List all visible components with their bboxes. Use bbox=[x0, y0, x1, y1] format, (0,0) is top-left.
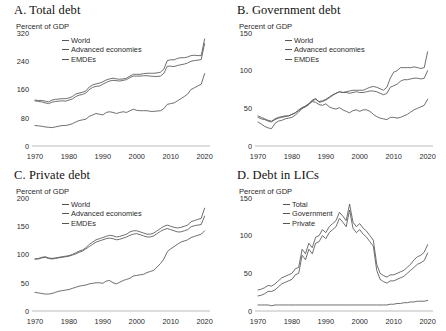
series-line-private bbox=[258, 300, 428, 305]
panel-a-plot: 080160240320197019801990200020102020 bbox=[0, 0, 223, 166]
legend-item-government: Government bbox=[283, 209, 333, 218]
panel-b-legend: World Advanced economies EMDEs bbox=[285, 36, 365, 64]
legend-line-icon bbox=[62, 59, 69, 60]
legend-label: World bbox=[71, 36, 90, 45]
panel-a-total-debt: A. Total debt Percent of GDP 08016024032… bbox=[0, 0, 223, 165]
axis-tick-label: 150 bbox=[240, 194, 252, 203]
line-chart-svg: 050100150200197019801990200020102020 bbox=[0, 165, 223, 331]
legend-line-icon bbox=[283, 223, 290, 224]
axis-tick-label: 2010 bbox=[385, 152, 401, 161]
legend-line-icon bbox=[285, 40, 292, 41]
axis-tick-label: 1980 bbox=[61, 317, 77, 326]
axis-tick-label: 2020 bbox=[196, 152, 212, 161]
axis-tick-label: 1970 bbox=[27, 152, 43, 161]
legend-item-emdes: EMDEs bbox=[285, 55, 365, 64]
legend-item-advanced-economies: Advanced economies bbox=[62, 45, 142, 54]
legend-line-icon bbox=[285, 49, 292, 50]
axis-tick-label: 100 bbox=[17, 250, 29, 259]
legend-line-icon bbox=[62, 40, 69, 41]
panel-c-private-debt: C. Private debt Percent of GDP 050100150… bbox=[0, 165, 223, 331]
legend-item-world: World bbox=[62, 36, 142, 45]
axis-tick-label: 150 bbox=[17, 222, 29, 231]
legend-line-icon bbox=[62, 49, 69, 50]
legend-label: Total bbox=[292, 200, 308, 209]
axis-tick-label: 2020 bbox=[196, 317, 212, 326]
panel-a-legend: World Advanced economies EMDEs bbox=[62, 36, 142, 64]
axis-tick-label: 1970 bbox=[27, 317, 43, 326]
axis-tick-label: 2020 bbox=[419, 152, 435, 161]
legend-label: Advanced economies bbox=[294, 45, 365, 54]
line-chart-svg: 050100150197019801990200020102020 bbox=[223, 0, 446, 166]
series-line-emdes bbox=[258, 99, 428, 128]
axis-tick-label: 2010 bbox=[162, 152, 178, 161]
legend-line-icon bbox=[62, 223, 69, 224]
axis-tick-label: 2000 bbox=[129, 317, 145, 326]
axis-tick-label: 50 bbox=[244, 104, 252, 113]
panel-d-legend: Total Government Private bbox=[283, 200, 333, 228]
axis-tick-label: 2000 bbox=[352, 317, 368, 326]
legend-item-emdes: EMDEs bbox=[62, 55, 142, 64]
legend-item-total: Total bbox=[283, 200, 333, 209]
axis-tick-label: 1980 bbox=[284, 317, 300, 326]
axis-tick-label: 1990 bbox=[95, 152, 111, 161]
legend-item-private: Private bbox=[283, 219, 333, 228]
legend-item-world: World bbox=[62, 200, 142, 209]
series-line-emdes bbox=[35, 231, 205, 294]
axis-tick-label: 2000 bbox=[352, 152, 368, 161]
panel-b-plot: 050100150197019801990200020102020 bbox=[223, 0, 446, 166]
legend-line-icon bbox=[285, 59, 292, 60]
axis-tick-label: 160 bbox=[17, 85, 29, 94]
legend-line-icon bbox=[283, 204, 290, 205]
legend-item-world: World bbox=[285, 36, 365, 45]
legend-line-icon bbox=[62, 213, 69, 214]
axis-tick-label: 2010 bbox=[162, 317, 178, 326]
legend-item-emdes: EMDEs bbox=[62, 219, 142, 228]
panel-d-debt-in-lics: D. Debt in LICs Percent of GDP 050100150… bbox=[223, 165, 446, 331]
axis-tick-label: 1990 bbox=[95, 317, 111, 326]
axis-tick-label: 1970 bbox=[250, 317, 266, 326]
legend-label: Private bbox=[292, 219, 315, 228]
axis-tick-label: 50 bbox=[21, 279, 29, 288]
axis-tick-label: 1990 bbox=[318, 152, 334, 161]
axis-tick-label: 50 bbox=[244, 269, 252, 278]
axis-tick-label: 1990 bbox=[318, 317, 334, 326]
axis-tick-label: 2000 bbox=[129, 152, 145, 161]
panel-c-plot: 050100150200197019801990200020102020 bbox=[0, 165, 223, 331]
panel-b-government-debt: B. Government debt Percent of GDP 050100… bbox=[223, 0, 446, 165]
axis-tick-label: 240 bbox=[17, 57, 29, 66]
axis-tick-label: 2020 bbox=[419, 317, 435, 326]
legend-label: EMDEs bbox=[71, 219, 96, 228]
axis-tick-label: 1980 bbox=[61, 152, 77, 161]
legend-item-advanced-economies: Advanced economies bbox=[285, 45, 365, 54]
series-line-world bbox=[258, 71, 428, 121]
panel-c-legend: World Advanced economies EMDEs bbox=[62, 200, 142, 228]
legend-label: Advanced economies bbox=[71, 209, 142, 218]
legend-label: World bbox=[71, 200, 90, 209]
legend-line-icon bbox=[283, 213, 290, 214]
axis-tick-label: 0 bbox=[25, 307, 29, 316]
axis-tick-label: 0 bbox=[248, 142, 252, 151]
axis-tick-label: 80 bbox=[21, 114, 29, 123]
axis-tick-label: 2010 bbox=[385, 317, 401, 326]
axis-tick-label: 0 bbox=[248, 307, 252, 316]
panel-d-plot: 050100150197019801990200020102020 bbox=[223, 165, 446, 331]
axis-tick-label: 320 bbox=[17, 29, 29, 38]
legend-label: EMDEs bbox=[71, 55, 96, 64]
debt-chart-figure: A. Total debt Percent of GDP 08016024032… bbox=[0, 0, 446, 331]
line-chart-svg: 080160240320197019801990200020102020 bbox=[0, 0, 223, 166]
legend-label: World bbox=[294, 36, 313, 45]
legend-line-icon bbox=[62, 204, 69, 205]
legend-label: Government bbox=[292, 209, 333, 218]
axis-tick-label: 1970 bbox=[250, 152, 266, 161]
legend-label: Advanced economies bbox=[71, 45, 142, 54]
legend-item-advanced-economies: Advanced economies bbox=[62, 209, 142, 218]
axis-tick-label: 200 bbox=[17, 194, 29, 203]
axis-tick-label: 100 bbox=[240, 231, 252, 240]
axis-tick-label: 100 bbox=[240, 66, 252, 75]
axis-tick-label: 150 bbox=[240, 29, 252, 38]
line-chart-svg: 050100150197019801990200020102020 bbox=[223, 165, 446, 331]
axis-tick-label: 0 bbox=[25, 142, 29, 151]
axis-tick-label: 1980 bbox=[284, 152, 300, 161]
legend-label: EMDEs bbox=[294, 55, 319, 64]
